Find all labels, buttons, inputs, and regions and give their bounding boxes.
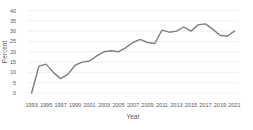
x-tick-label: 2003 xyxy=(98,102,110,108)
y-tick-label: 40 xyxy=(10,8,16,14)
x-axis-title: Year xyxy=(126,113,140,120)
y-tick-label: 35 xyxy=(10,18,16,24)
x-tick-label: 2015 xyxy=(185,102,197,108)
x-tick-label: 2017 xyxy=(199,102,211,108)
x-tick-label: 2007 xyxy=(127,102,139,108)
x-tick-label: 2009 xyxy=(141,102,153,108)
x-tick-label: 1993 xyxy=(25,102,37,108)
y-tick-label: 15 xyxy=(10,59,16,65)
x-tick-label: 2013 xyxy=(170,102,182,108)
y-tick-label: 20 xyxy=(10,49,16,55)
x-tick-label: 1997 xyxy=(54,102,66,108)
y-axis-tick-labels: 0510152025303540 xyxy=(10,8,16,97)
y-tick-label: 30 xyxy=(10,28,16,34)
y-tick-label: 5 xyxy=(13,80,16,86)
x-tick-label: 1999 xyxy=(69,102,81,108)
y-axis-title: Percent xyxy=(1,41,8,64)
x-tick-label: 2001 xyxy=(83,102,95,108)
x-tick-label: 2011 xyxy=(156,102,168,108)
y-tick-label: 10 xyxy=(10,69,16,75)
chart-canvas: 0510152025303540 19931995199719992001200… xyxy=(0,0,253,130)
x-tick-label: 2005 xyxy=(112,102,124,108)
x-axis-tick-labels: 1993199519971999200120032005200720092011… xyxy=(25,102,240,108)
gridlines xyxy=(28,11,238,94)
y-tick-label: 0 xyxy=(13,90,16,96)
y-tick-label: 25 xyxy=(10,38,16,44)
x-tick-label: 2019 xyxy=(214,102,226,108)
x-tick-label: 2021 xyxy=(228,102,240,108)
line-chart: 0510152025303540 19931995199719992001200… xyxy=(0,0,253,130)
x-tick-label: 1995 xyxy=(40,102,52,108)
